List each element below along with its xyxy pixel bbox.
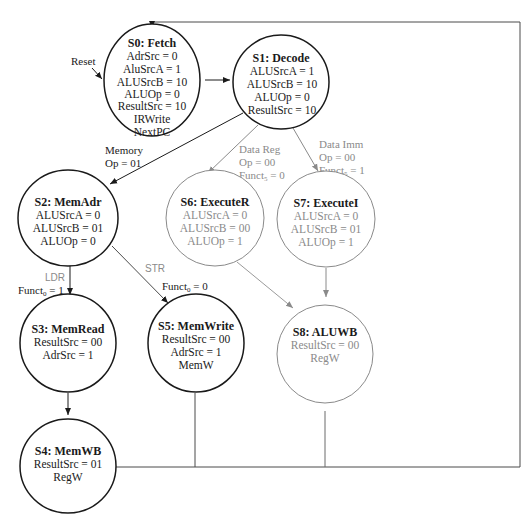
svg-text:S3: MemRead: S3: MemRead — [32, 322, 105, 336]
state-s7: S7: ExecuteI ALUSrcA = 0 ALUSrcB = 01 AL… — [277, 171, 375, 267]
svg-text:ALUSrcA = 0: ALUSrcA = 0 — [36, 209, 101, 221]
state-s8: S8: ALUWB ResultSrc = 00 RegW — [277, 305, 373, 403]
state-s3: S3: MemRead ResultSrc = 00 AdrSrc = 1 — [20, 294, 116, 392]
svg-text:ResultSrc = 00: ResultSrc = 00 — [162, 333, 231, 345]
reset-arrow-line — [92, 68, 102, 79]
svg-text:ALUSrcB = 10: ALUSrcB = 10 — [117, 76, 188, 88]
svg-text:S1: Decode: S1: Decode — [253, 51, 311, 65]
svg-text:ALUOp = 0: ALUOp = 0 — [254, 91, 310, 104]
svg-text:ALUSrcB = 01: ALUSrcB = 01 — [291, 223, 362, 235]
svg-text:AdrSrc = 1: AdrSrc = 1 — [170, 346, 221, 358]
state-s5: S5: MemWrite ResultSrc = 00 AdrSrc = 1 M… — [148, 294, 244, 392]
svg-text:ALUOp = 1: ALUOp = 1 — [187, 235, 243, 248]
svg-text:Op = 00: Op = 00 — [239, 156, 276, 168]
svg-text:ALUSrcB = 01: ALUSrcB = 01 — [33, 222, 104, 234]
svg-text:Op = 01: Op = 01 — [105, 157, 141, 169]
svg-text:STR: STR — [145, 263, 165, 274]
svg-text:Funct0 = 0: Funct0 = 0 — [162, 280, 208, 294]
edge-s6-s8 — [237, 262, 293, 308]
svg-text:ResultSrc = 00: ResultSrc = 00 — [291, 339, 360, 351]
svg-text:Data Reg: Data Reg — [239, 143, 281, 155]
svg-text:Op = 00: Op = 00 — [319, 151, 356, 163]
svg-text:ResultSrc = 00: ResultSrc = 00 — [34, 336, 103, 348]
svg-text:S2: MemAdr: S2: MemAdr — [35, 195, 103, 209]
state-s4: S4: MemWB ResultSrc = 01 RegW — [20, 419, 116, 513]
svg-text:MemW: MemW — [178, 359, 213, 371]
svg-text:ALUSrcA = 0: ALUSrcA = 0 — [183, 209, 248, 221]
svg-text:IRWrite: IRWrite — [134, 113, 171, 125]
svg-text:ResultSrc = 10: ResultSrc = 10 — [118, 100, 187, 112]
svg-text:ALUSrcB = 10: ALUSrcB = 10 — [247, 78, 318, 90]
svg-text:S7: ExecuteI: S7: ExecuteI — [294, 196, 359, 210]
svg-text:AdrSrc = 0: AdrSrc = 0 — [126, 50, 177, 62]
svg-text:AluSrcA = 1: AluSrcA = 1 — [123, 63, 181, 75]
reset-label: Reset — [71, 55, 95, 67]
edge-label-s2-s3: LDR Funct0 = 1 — [18, 272, 65, 298]
state-s2: S2: MemAdr ALUSrcA = 0 ALUSrcB = 01 ALUO… — [18, 170, 118, 266]
svg-text:ALUSrcA = 1: ALUSrcA = 1 — [250, 65, 315, 77]
svg-text:Data Imm: Data Imm — [319, 138, 364, 150]
svg-text:RegW: RegW — [310, 352, 340, 365]
svg-text:S6: ExecuteR: S6: ExecuteR — [181, 195, 250, 209]
fsm-diagram: Reset Memory Op = 01 Data Reg Op = 00 Fu… — [0, 0, 530, 528]
svg-text:LDR: LDR — [45, 272, 65, 283]
svg-text:Memory: Memory — [105, 144, 143, 156]
svg-text:ResultSrc = 10: ResultSrc = 10 — [248, 104, 317, 116]
state-s0: S0: Fetch AdrSrc = 0 AluSrcA = 1 ALUSrcB… — [104, 24, 200, 138]
svg-text:S5: MemWrite: S5: MemWrite — [158, 319, 235, 333]
edge-label-s1-s6: Data Reg Op = 00 Funct5 = 0 — [239, 143, 285, 183]
svg-text:ResultSrc = 01: ResultSrc = 01 — [34, 458, 103, 470]
svg-text:NextPC: NextPC — [134, 126, 171, 138]
svg-text:ALUOp = 1: ALUOp = 1 — [298, 236, 354, 249]
svg-text:S4: MemWB: S4: MemWB — [35, 444, 101, 458]
svg-text:ALUSrcB = 00: ALUSrcB = 00 — [180, 222, 251, 234]
edge-label-s1-s2: Memory Op = 01 — [105, 144, 143, 169]
svg-text:S8: ALUWB: S8: ALUWB — [293, 325, 357, 339]
edge-s1-s7 — [293, 128, 318, 171]
edge-s2-s5 — [112, 246, 168, 303]
svg-text:RegW: RegW — [53, 471, 83, 484]
svg-text:ALUSrcA = 0: ALUSrcA = 0 — [294, 210, 359, 222]
svg-text:ALUOp = 0: ALUOp = 0 — [40, 235, 96, 248]
state-s6: S6: ExecuteR ALUSrcA = 0 ALUSrcB = 00 AL… — [166, 170, 264, 266]
reset-arrow: Reset — [71, 55, 102, 79]
svg-text:AdrSrc = 1: AdrSrc = 1 — [42, 349, 93, 361]
state-s1: S1: Decode ALUSrcA = 1 ALUSrcB = 10 ALUO… — [233, 35, 329, 129]
svg-text:S0: Fetch: S0: Fetch — [128, 36, 177, 50]
